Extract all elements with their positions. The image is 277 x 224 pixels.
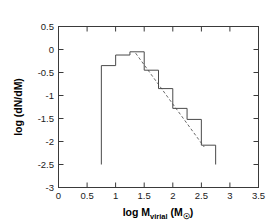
x-tick-label: 3.5 [252, 190, 265, 201]
x-tick-labels: 0 0.5 1 1.5 2 2.5 3 3.5 [56, 190, 265, 201]
x-tick-label: 1 [113, 190, 118, 201]
y-axis-ticks [59, 27, 64, 188]
chart-figure: 0.5 0 -0.5 -1 -1.5 -2 -2.5 -3 0 0.5 1 1.… [0, 0, 277, 224]
power-law-fit-line [136, 53, 205, 147]
y-axis-ticks-right [254, 27, 259, 188]
x-axis-title-main: log M [123, 206, 151, 218]
y-tick-label: -1 [46, 90, 54, 101]
plot-frame [59, 27, 259, 188]
x-tick-label: 2 [170, 190, 175, 201]
y-tick-labels: 0.5 0 -0.5 -1 -1.5 -2 -2.5 -3 [38, 21, 54, 193]
y-tick-label: -0.5 [38, 67, 54, 78]
y-tick-label: 0 [49, 44, 54, 55]
x-tick-label: 1.5 [138, 190, 151, 201]
x-axis-ticks-top [59, 27, 259, 32]
x-axis-title-unit-close: ) [190, 206, 194, 218]
x-axis-title: log Mvirial (M☉) [123, 206, 194, 221]
x-axis-title-unit-subscript: ☉ [183, 212, 190, 221]
y-tick-label: -1.5 [38, 113, 54, 124]
mass-function-histogram [101, 52, 215, 165]
y-axis-title: log (dN/dM) [12, 78, 24, 136]
x-tick-label: 0 [56, 190, 61, 201]
x-tick-label: 0.5 [80, 190, 93, 201]
x-axis-title-subscript: virial [150, 212, 168, 221]
y-tick-label: -2 [46, 136, 54, 147]
x-axis-title-unit-open: (M [168, 206, 183, 218]
mass-function-plot: 0.5 0 -0.5 -1 -1.5 -2 -2.5 -3 0 0.5 1 1.… [0, 0, 277, 224]
y-tick-label: -2.5 [38, 159, 54, 170]
x-tick-label: 3 [227, 190, 232, 201]
x-axis-ticks [59, 183, 259, 188]
y-tick-label: -3 [46, 182, 54, 193]
y-tick-label: 0.5 [41, 21, 54, 32]
x-tick-label: 2.5 [195, 190, 208, 201]
